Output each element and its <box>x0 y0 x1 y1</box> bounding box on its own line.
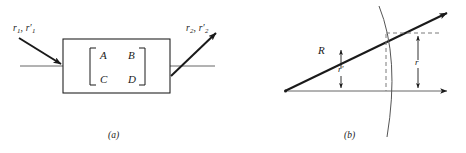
matrix-entry-a: A <box>100 50 107 61</box>
matrix-bracket-left <box>90 48 96 85</box>
panel-b-ray-geometry: R r′ r (b) <box>233 0 466 153</box>
output-ray-sub-2: 2 <box>205 27 209 34</box>
panel-a-caption: (a) <box>108 130 119 140</box>
output-ray-label: r2, r′2 <box>186 24 209 35</box>
matrix-entry-b: B <box>128 50 135 61</box>
abcd-system-box <box>63 39 170 93</box>
radius-label-R: R <box>318 45 325 56</box>
input-ray-sub-2: 1 <box>32 27 36 34</box>
ray-origin-vertex <box>284 90 287 93</box>
angle-label-r-prime: r′ <box>338 65 343 74</box>
input-ray-label: r1, r′1 <box>13 24 36 35</box>
height-label-r: r <box>415 58 419 67</box>
output-ray-arrow <box>171 33 216 76</box>
matrix-entry-d: D <box>128 74 136 85</box>
panel-b-caption: (b) <box>344 130 355 140</box>
curved-surface-arc <box>379 6 392 137</box>
optics-figure: r1, r′1 r2, r′2 A B C D (a) <box>0 0 466 153</box>
input-ray-arrow <box>19 38 61 64</box>
ray-line <box>285 13 447 91</box>
panel-a-abcd-matrix: r1, r′1 r2, r′2 A B C D (a) <box>0 0 233 153</box>
matrix-entry-c: C <box>100 74 107 85</box>
matrix-bracket-right <box>139 48 145 85</box>
